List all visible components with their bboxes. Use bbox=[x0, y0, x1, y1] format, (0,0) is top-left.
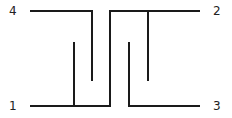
coupler-diagram: 4 2 1 3 bbox=[0, 0, 232, 118]
port-label-4: 4 bbox=[9, 4, 17, 18]
port-label-2: 2 bbox=[213, 4, 221, 18]
conductor-port-1-to-2 bbox=[30, 11, 200, 106]
conductor-port-3 bbox=[129, 42, 200, 106]
conductor-port-4 bbox=[30, 11, 92, 81]
port-label-1: 1 bbox=[9, 99, 17, 113]
port-label-3: 3 bbox=[213, 99, 221, 113]
